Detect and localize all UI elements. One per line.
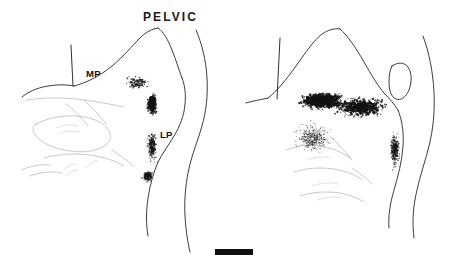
pudendal-midline-marker (277, 38, 280, 99)
region-label-lp-pelvic: LP (160, 130, 173, 140)
panel-pudendal: PUDENDAL MP LP (230, 0, 461, 278)
pudendal-lamina-boundary-3 (352, 168, 372, 184)
pudendal-lateral-contour (389, 110, 404, 228)
pudendal-lateral-upper-contour (384, 93, 398, 110)
pelvic-ventral-contour-left-2 (30, 172, 62, 176)
scale-bar (215, 249, 253, 255)
pelvic-section-drawing (0, 0, 230, 278)
pelvic-lamina-boundary-2 (66, 104, 88, 126)
pelvic-midline-marker (71, 45, 73, 86)
pudendal-lissauer-crescent (389, 63, 411, 99)
pelvic-lamina-boundary-3 (84, 100, 106, 124)
pudendal-lamina-boundary-2 (330, 136, 352, 160)
region-label-mp-pelvic: MP (86, 69, 101, 79)
pudendal-section-drawing (230, 0, 461, 278)
pudendal-dorsolateral-contour (340, 29, 384, 93)
pelvic-dorsolateral-contour (158, 28, 182, 78)
pelvic-ventral-contour-left (22, 165, 50, 170)
pudendal-cord-outer-rim (413, 36, 434, 238)
panel-title-pelvic: PELVIC (143, 11, 198, 23)
pelvic-lateral-contour (158, 78, 185, 162)
pudendal-ventral-grey-boundary (294, 168, 362, 180)
pelvic-dorsal-grey-outline (33, 116, 111, 152)
pelvic-terminal-field-stipple (126, 76, 158, 183)
pelvic-cord-outer-rim (185, 30, 208, 252)
pelvic-lamina-boundary-1 (26, 98, 124, 107)
pelvic-ventral-grey-boundary (44, 154, 124, 166)
panel-pelvic: PELVIC MP LP (0, 0, 230, 278)
pudendal-ventromedial-contour (246, 98, 268, 103)
pelvic-ventromedial-contour (22, 85, 74, 97)
pelvic-lamina-boundary-4 (112, 150, 134, 167)
figure-root: PELVIC MP LP (0, 0, 461, 278)
